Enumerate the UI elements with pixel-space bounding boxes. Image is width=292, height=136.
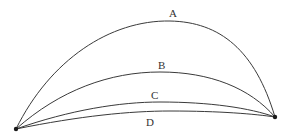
curves-diagram: A B C D [0, 0, 292, 136]
label-d: D [146, 116, 154, 128]
right-endpoint-dot [273, 115, 277, 119]
label-c: C [151, 89, 158, 101]
left-endpoint-dot [14, 127, 18, 131]
label-b: B [158, 59, 165, 71]
label-a: A [169, 7, 177, 19]
